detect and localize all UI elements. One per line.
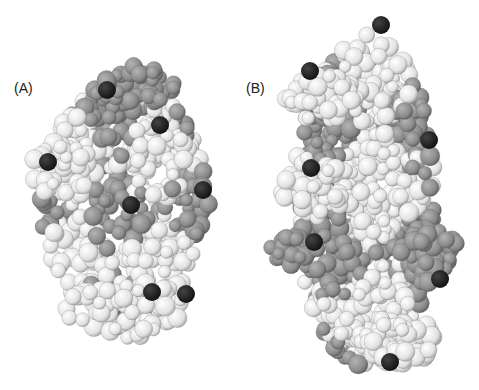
figure-canvas xyxy=(0,0,479,390)
panel-label-b: (B) xyxy=(246,80,265,96)
molecule-a xyxy=(25,57,218,344)
panel-label-a: (A) xyxy=(14,80,33,96)
molecule-b xyxy=(264,16,465,374)
